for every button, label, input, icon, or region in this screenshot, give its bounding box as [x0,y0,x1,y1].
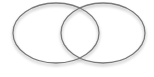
venn-diagram [0,0,154,77]
venn-set-left [13,3,99,63]
venn-set-right [61,3,145,63]
